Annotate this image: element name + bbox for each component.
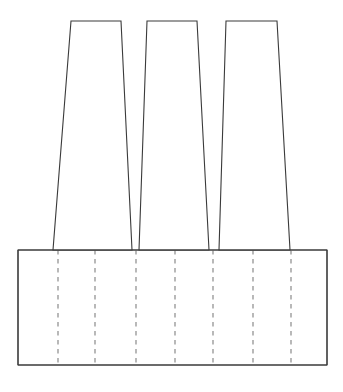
technical-drawing-figure [0,0,343,392]
drawing-canvas [0,0,343,392]
blade-group [53,21,290,250]
blade-3-outline [219,21,290,250]
blade-2-outline [139,21,209,250]
base-plate-outline [18,250,327,365]
base-plate-group [18,250,327,365]
